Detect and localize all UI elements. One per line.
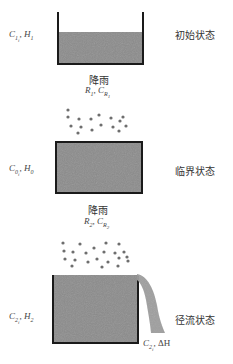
rain-drop (122, 250, 125, 253)
height-sub: 1 (30, 35, 33, 41)
container-initial (58, 12, 143, 64)
rain-drop (62, 249, 65, 252)
rain-drop (97, 113, 100, 116)
height-sub: 2 (30, 317, 33, 323)
state-label-runoff: C2i, H2 (9, 311, 33, 325)
rain-drop (113, 251, 116, 254)
rain-params-2: R2, CR2 (84, 216, 109, 230)
rain-drop (66, 108, 69, 111)
rain-label-2: 降雨 (88, 202, 108, 217)
rain-drop (86, 260, 89, 263)
runoff-diagram (0, 0, 233, 364)
rain-drop (117, 242, 120, 245)
container-runoff (53, 274, 165, 343)
state-name-critical: 临界状态 (175, 163, 215, 178)
state-label-critical: C0i, H0 (9, 163, 33, 177)
rain-drop (89, 117, 92, 120)
rain-drop (84, 251, 87, 254)
delta-h: ΔH (158, 338, 170, 348)
rain-drop (126, 259, 129, 262)
rain-drop (124, 124, 127, 127)
rain-drop (61, 241, 64, 244)
rain-drop (78, 242, 81, 245)
rain-drop (111, 125, 114, 128)
rain-drop (90, 128, 93, 131)
rain-drop (125, 255, 128, 258)
rain-drop (63, 257, 66, 260)
rain-drop (77, 117, 80, 120)
rain-drop (76, 131, 79, 134)
state-name-initial: 初始状态 (175, 27, 215, 42)
rain-drop (69, 124, 72, 127)
rain-drop (66, 115, 69, 118)
rain-drop (106, 260, 109, 263)
rain-drop (99, 123, 102, 126)
rain-drop (70, 264, 73, 267)
rain-drop (95, 257, 98, 260)
water-critical (56, 142, 142, 193)
rain-drop (100, 265, 103, 268)
rain-drop (117, 129, 120, 132)
height-sub: 0 (30, 169, 33, 175)
overflow-stream (137, 274, 165, 333)
rain-drop (116, 264, 119, 267)
rain-drop (109, 116, 112, 119)
water-initial (59, 32, 142, 63)
rain-drop (104, 241, 107, 244)
rain-conc-subsub: 2 (107, 225, 110, 230)
state-label-initial: C1i, H1 (9, 29, 33, 43)
rain-drop (79, 125, 82, 128)
water-runoff (53, 275, 138, 343)
container-critical (56, 142, 142, 193)
rain-drops-2 (61, 241, 129, 268)
rain-drop (102, 250, 105, 253)
rain-drop (121, 115, 124, 118)
overflow-label: C2i, ΔH (143, 338, 170, 352)
rain-drop (117, 256, 120, 259)
state-name-runoff: 径流状态 (175, 312, 215, 327)
rain-drop (92, 246, 95, 249)
rain-drop (71, 250, 74, 253)
rain-conc-subsub: 1 (108, 94, 111, 99)
rain-drop (73, 258, 76, 261)
rain-drops-1 (66, 108, 127, 134)
rain-drop (118, 119, 121, 122)
rain-params-1: R1, CR1 (85, 85, 110, 99)
